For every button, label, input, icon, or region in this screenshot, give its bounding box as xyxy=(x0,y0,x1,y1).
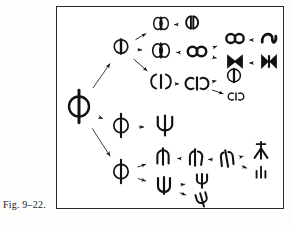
node-lower-a-stage-1 xyxy=(148,145,178,171)
node-upper-b-stage-1 xyxy=(145,38,177,66)
node-lower-a-stage-2 xyxy=(181,146,211,172)
figure-caption: Fig. 9–22. xyxy=(3,199,46,210)
figure-frame xyxy=(56,6,284,209)
node-upper-b-stage-2 xyxy=(180,38,214,67)
node-upper-b-branch-lower-bowtie-barred xyxy=(253,49,285,77)
node-upper-c-stage-2 xyxy=(182,72,212,98)
node-upper-branch-parent xyxy=(105,34,137,62)
node-lower-b-branch-lower-psi-tilted xyxy=(188,189,217,214)
node-upper-c-branch-upper-circle-bar xyxy=(219,64,249,90)
glyph-layer xyxy=(57,7,283,208)
node-upper-a-stage-2 xyxy=(178,12,207,37)
node-upper-c-stage-1 xyxy=(146,70,176,96)
figure-page: Fig. 9–22. xyxy=(0,0,291,231)
node-upper-a-stage-1 xyxy=(147,13,176,38)
node-middle-branch-parent xyxy=(104,112,138,141)
node-lower-branch-parent xyxy=(104,158,138,187)
node-upper-c-branch-lower-cic xyxy=(226,89,247,108)
node-middle-branch-psi xyxy=(147,112,183,143)
node-lower-a-branch-lower-cluster xyxy=(249,163,274,185)
node-lower-a-branch-upper-sprout xyxy=(246,139,276,165)
node-root-parent-form xyxy=(55,88,103,127)
node-lower-b-stage-1 xyxy=(148,173,180,201)
node-lower-a-stage-3 xyxy=(212,147,242,173)
